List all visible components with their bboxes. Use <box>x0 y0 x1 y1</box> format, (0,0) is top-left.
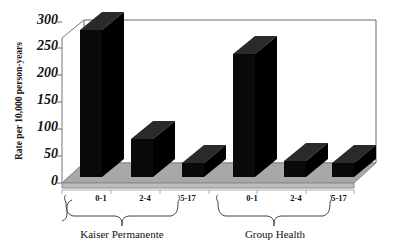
group-brace-kaiser <box>62 200 178 226</box>
bar-chart: Rate per 10,000 person-years 300 250 200… <box>0 0 397 248</box>
x-tick-label-kaiser-2-4: 2-4 <box>123 193 167 203</box>
x-tick-label-kaiser-0-1: 0-1 <box>79 193 123 203</box>
chart-plot-svg <box>0 0 397 248</box>
x-tick-label-group-health-2-4: 2-4 <box>274 193 318 203</box>
group-label-group-health: Group Health <box>219 228 331 240</box>
bar-kaiser-0-1 <box>80 12 124 177</box>
group-brace-group-health <box>218 202 330 226</box>
bar-group-health-0-1 <box>233 36 277 177</box>
x-tick-label-group-health-0-1: 0-1 <box>230 193 274 203</box>
plot-back-wall <box>84 20 376 163</box>
plot-floor-front-edge <box>62 183 354 188</box>
x-tick-label-group-health-5-17: 5-17 <box>317 193 361 203</box>
y-axis-ticks <box>56 22 62 183</box>
x-tick-label-kaiser-5-17: 5-17 <box>166 193 210 203</box>
group-label-kaiser-permanente: Kaiser Permanente <box>62 228 182 240</box>
